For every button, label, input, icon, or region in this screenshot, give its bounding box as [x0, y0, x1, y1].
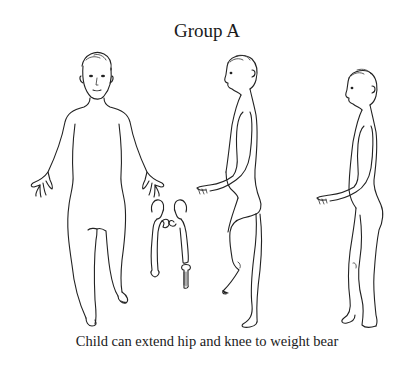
side-view-child-standing [317, 69, 383, 327]
front-view-child [31, 53, 164, 327]
side-view-child-flexed [197, 55, 262, 327]
illustration [0, 0, 414, 366]
hip-knee-bones [151, 200, 190, 288]
figure-caption: Child can extend hip and knee to weight … [0, 333, 414, 350]
